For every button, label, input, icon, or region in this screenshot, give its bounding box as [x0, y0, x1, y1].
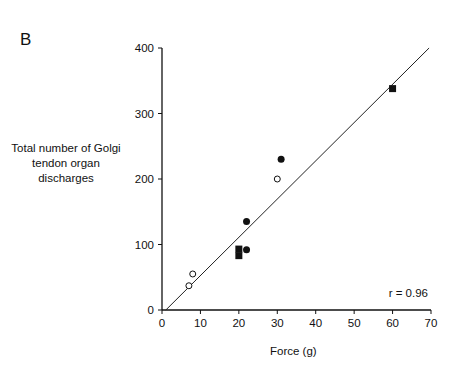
x-tick-label: 50	[348, 317, 361, 329]
data-point-filled-circle	[278, 156, 285, 163]
data-point-square	[235, 246, 242, 253]
y-tick-label: 400	[135, 42, 154, 54]
y-tick-label: 200	[135, 173, 154, 185]
y-tick-label: 0	[148, 304, 154, 316]
data-point-open-circle	[274, 176, 280, 182]
scatter-plot: 0102030405060700100200300400r = 0.96	[0, 0, 454, 372]
y-tick-label: 300	[135, 108, 154, 120]
x-tick-label: 70	[425, 317, 438, 329]
correlation-annotation: r = 0.96	[389, 287, 428, 299]
x-tick-label: 40	[309, 317, 322, 329]
x-tick-label: 0	[159, 317, 165, 329]
data-point-square	[235, 252, 242, 259]
y-tick-label: 100	[135, 239, 154, 251]
data-point-filled-circle	[243, 218, 250, 225]
data-point-filled-circle	[243, 246, 250, 253]
x-tick-label: 60	[386, 317, 399, 329]
data-point-square	[389, 85, 396, 92]
x-tick-label: 30	[271, 317, 284, 329]
data-point-open-circle	[190, 271, 196, 277]
x-tick-label: 20	[232, 317, 245, 329]
data-point-open-circle	[186, 283, 192, 289]
x-tick-label: 10	[194, 317, 207, 329]
